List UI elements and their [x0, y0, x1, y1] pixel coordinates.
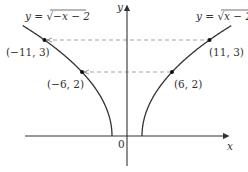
point-marker [208, 38, 212, 42]
point-marker [43, 38, 47, 42]
origin-label: 0 [118, 138, 125, 150]
right-func-prefix: y = [195, 10, 217, 22]
right-function-label: y = √x − 2 [195, 10, 248, 22]
right-func-radicand: x − 2 [224, 10, 248, 22]
point-label-neg6-2: (−6, 2) [47, 78, 84, 90]
svg-text:y = √−x − 2: y = √−x − 2 [24, 10, 90, 22]
point-marker [80, 70, 84, 74]
svg-text:y = √x − 2: y = √x − 2 [195, 10, 248, 22]
graph: y x 0 y = √−x − 2 y = √x − 2 (−11, 3) (−… [0, 0, 248, 172]
left-function-label: y = √−x − 2 [24, 10, 90, 22]
left-func-prefix: y = [24, 10, 46, 22]
point-marker [170, 70, 174, 74]
x-axis-label: x [227, 140, 233, 152]
point-label-11-3: (11, 3) [209, 46, 244, 58]
point-label-6-2: (6, 2) [174, 78, 202, 90]
left-func-radicand: −x − 2 [53, 10, 90, 22]
point-label-neg11-3: (−11, 3) [6, 46, 50, 58]
y-axis-label: y [116, 1, 124, 13]
